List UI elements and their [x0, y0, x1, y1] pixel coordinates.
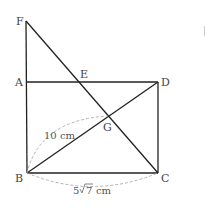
- measure-BC-coef: 5: [73, 185, 79, 196]
- edge-mark: [204, 26, 205, 36]
- measure-BG: 10 cm: [44, 130, 76, 141]
- segment-BD: [27, 82, 158, 173]
- label-C: C: [161, 172, 169, 185]
- label-E: E: [80, 68, 88, 81]
- arc-BC: [27, 173, 158, 187]
- measure-BC-rad: 7: [86, 185, 92, 196]
- segment-FB: [26, 21, 27, 173]
- label-A: A: [14, 76, 24, 89]
- segment-FC: [26, 21, 158, 173]
- label-B: B: [15, 172, 23, 185]
- measure-BC-unit: cm: [96, 185, 112, 196]
- label-D: D: [161, 76, 170, 89]
- geometry-diagram: F A E D G B C 10 cm 5 7 cm: [0, 0, 205, 213]
- label-G: G: [103, 121, 112, 134]
- label-F: F: [16, 15, 24, 28]
- measure-BC: 5 7 cm: [73, 184, 112, 196]
